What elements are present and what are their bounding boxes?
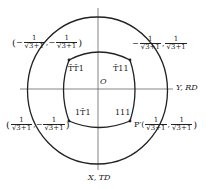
fraction: 1√3+1 bbox=[43, 117, 64, 132]
point-label-upper-left: (−1√3+1,−1√3+1) bbox=[12, 34, 82, 50]
fraction: 1√3+1 bbox=[56, 35, 77, 50]
region-label-lower-right: 111 bbox=[115, 109, 130, 117]
point-label-lower-left: (1√3+1,−1√3+1) bbox=[6, 116, 70, 132]
corner-point-lower-right bbox=[129, 120, 132, 123]
fraction: 1√3+1 bbox=[24, 35, 45, 50]
pole-figure-diagram bbox=[0, 0, 214, 189]
point-label-lower-right-p-prime: P′(1√3+1,1√3+1) bbox=[134, 116, 197, 132]
region-label-upper-right: T̄11 bbox=[113, 65, 129, 73]
region-label-upper-left: T̄T̄1 bbox=[68, 65, 84, 73]
point-label-upper-right: −1√3+1,1√3+1 bbox=[132, 35, 188, 51]
fraction: 1√3+1 bbox=[11, 117, 32, 132]
fraction: 1√3+1 bbox=[145, 117, 166, 132]
fraction: 1√3+1 bbox=[171, 117, 192, 132]
x-td-axis-label: X, TD bbox=[88, 174, 111, 182]
fraction: 1√3+1 bbox=[140, 36, 161, 51]
corner-point-upper-left bbox=[68, 59, 71, 62]
region-label-lower-left: 1T̄1 bbox=[75, 109, 91, 117]
origin-label: O bbox=[100, 78, 107, 86]
y-rd-axis-label: Y, RD bbox=[176, 84, 198, 92]
fraction: 1√3+1 bbox=[165, 36, 186, 51]
corner-point-upper-right bbox=[129, 59, 132, 62]
